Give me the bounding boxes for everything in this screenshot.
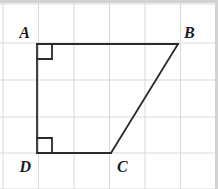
geometry-figure: ABCD: [0, 0, 218, 189]
border-strip-right: [215, 0, 218, 189]
vertex-label-B: B: [183, 24, 195, 41]
border-strip-top: [0, 0, 218, 3]
vertex-label-A: A: [18, 24, 30, 41]
vertex-label-D: D: [18, 158, 31, 175]
vertex-label-C: C: [117, 158, 128, 175]
figure-canvas: ABCD: [0, 0, 218, 189]
